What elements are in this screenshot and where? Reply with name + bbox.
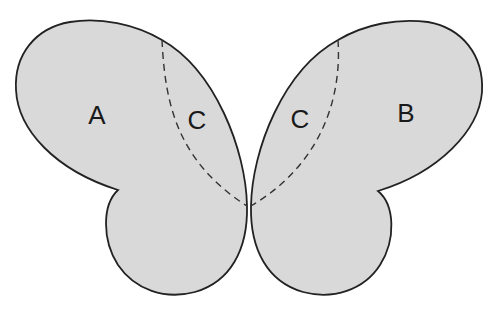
butterfly-diagram: A C C B bbox=[0, 0, 493, 310]
region-label-a: A bbox=[88, 100, 106, 130]
region-label-c-left: C bbox=[188, 105, 207, 135]
region-label-c-right: C bbox=[291, 104, 310, 134]
right-wing bbox=[251, 21, 482, 295]
left-wing bbox=[16, 20, 247, 294]
region-label-b: B bbox=[397, 98, 414, 128]
